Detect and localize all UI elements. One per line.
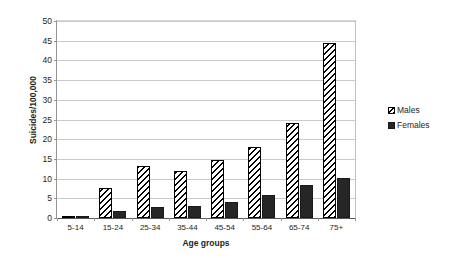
chart-legend: Males Females	[388, 105, 448, 135]
bar-females-35-44	[188, 206, 201, 218]
legend-item-males: Males	[388, 105, 448, 115]
chart-figure: Suicides/100,000 05101520253035404550 5-…	[0, 0, 449, 258]
x-tick-label-15-24: 15-24	[103, 223, 123, 232]
x-tick-mark	[318, 218, 319, 221]
plot-area: 05101520253035404550 5-1415-2425-3435-44…	[56, 20, 356, 219]
x-tick-label-25-34: 25-34	[140, 223, 160, 232]
y-tick-label: 20	[43, 134, 52, 144]
y-tick-label: 0	[47, 213, 52, 223]
bar-group	[248, 21, 275, 218]
x-tick-label-65-74: 65-74	[289, 223, 309, 232]
bar-males-35-44	[174, 171, 187, 218]
bar-males-65-74	[286, 123, 299, 218]
bar-males-45-54	[211, 160, 224, 218]
x-tick-mark	[355, 218, 356, 221]
x-tick-mark	[94, 218, 95, 221]
solid-swatch-icon	[388, 122, 395, 129]
bar-females-25-34	[151, 207, 164, 218]
bar-group	[211, 21, 238, 218]
y-tick-label: 35	[43, 75, 52, 85]
x-tick-label-75+: 75+	[330, 223, 344, 232]
x-tick-label-5-14: 5-14	[68, 223, 84, 232]
bar-females-45-54	[225, 202, 238, 218]
x-tick-mark	[132, 218, 133, 221]
legend-item-females: Females	[388, 120, 448, 130]
y-tick-label: 45	[43, 36, 52, 46]
y-tick-label: 30	[43, 95, 52, 105]
bar-group	[286, 21, 313, 218]
x-tick-mark	[206, 218, 207, 221]
x-tick-label-45-54: 45-54	[214, 223, 234, 232]
y-tick-label: 15	[43, 154, 52, 164]
x-tick-mark	[243, 218, 244, 221]
x-tick-label-35-44: 35-44	[177, 223, 197, 232]
bar-group	[99, 21, 126, 218]
y-tick-label: 25	[43, 115, 52, 125]
bar-group	[323, 21, 350, 218]
y-tick-label: 5	[47, 193, 52, 203]
y-tick-label: 40	[43, 55, 52, 65]
x-tick-mark	[281, 218, 282, 221]
x-axis-title: Age groups	[56, 238, 356, 248]
bar-series-container	[57, 21, 355, 218]
y-tick-label: 10	[43, 174, 52, 184]
bar-males-25-34	[137, 166, 150, 218]
x-tick-mark	[57, 218, 58, 221]
bar-females-75+	[337, 178, 350, 218]
legend-label-females: Females	[397, 120, 430, 130]
bar-group	[174, 21, 201, 218]
y-axis-title: Suicides/100,000	[28, 30, 38, 190]
bar-males-5-14	[62, 216, 75, 218]
bar-males-55-64	[248, 147, 261, 218]
bar-group	[137, 21, 164, 218]
bar-males-75+	[323, 43, 336, 218]
bar-females-15-24	[113, 211, 126, 218]
hatched-swatch-icon	[388, 107, 395, 114]
bar-group	[62, 21, 89, 218]
bar-females-5-14	[76, 216, 89, 218]
y-tick-label: 50	[43, 16, 52, 26]
x-tick-mark	[169, 218, 170, 221]
bar-females-55-64	[262, 195, 275, 218]
bar-females-65-74	[300, 185, 313, 218]
x-tick-label-55-64: 55-64	[252, 223, 272, 232]
bar-males-15-24	[99, 188, 112, 218]
legend-label-males: Males	[397, 105, 420, 115]
